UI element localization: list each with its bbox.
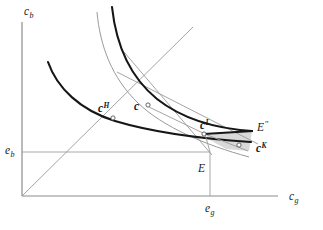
x-axis-label: cg bbox=[289, 191, 298, 203]
diagram-canvas bbox=[0, 0, 323, 230]
economics-indifference-curve-diagram: cb cg eb eg E cH c cL cK E'' bbox=[0, 0, 323, 230]
e-b-tick-label: eb bbox=[5, 145, 14, 157]
indifference-curve-low bbox=[112, 7, 252, 131]
point-label-c: c bbox=[134, 101, 139, 113]
point-label-E-double-prime: E'' bbox=[257, 122, 268, 134]
point-label-cK: cK bbox=[256, 143, 266, 155]
marker-c bbox=[146, 103, 150, 107]
marker-cH bbox=[111, 116, 115, 120]
marker-cK bbox=[237, 143, 241, 147]
e-g-tick-label: eg bbox=[205, 203, 214, 215]
indifference-curve-high bbox=[48, 62, 251, 142]
point-label-cH: cH bbox=[98, 103, 109, 115]
endowment-point-label: E bbox=[198, 163, 205, 175]
marker-cL bbox=[202, 132, 206, 136]
point-label-cL: cL bbox=[200, 120, 210, 132]
y-axis-label: cb bbox=[24, 6, 33, 18]
